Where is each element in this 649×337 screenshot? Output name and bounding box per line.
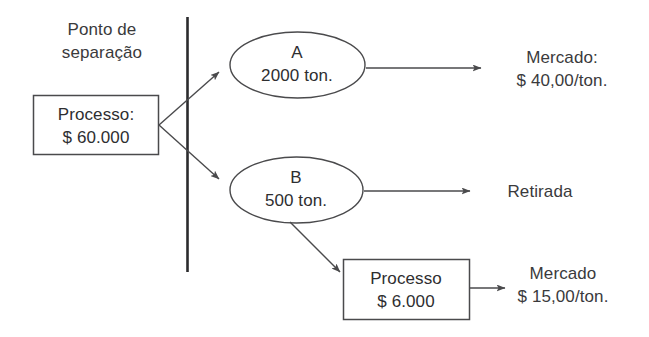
- ellipse-b-label: B 500 ton.: [265, 166, 327, 212]
- market-b-label: Mercado $ 15,00/ton.: [518, 262, 609, 308]
- arrow-b-to-process2: [290, 222, 340, 272]
- separation-point-label: Ponto de separação: [62, 18, 142, 64]
- withdrawal-label: Retirada: [507, 180, 572, 203]
- process-box-label: Processo: $ 60.000: [58, 103, 135, 149]
- arrow-process-to-b: [159, 125, 219, 179]
- process2-box-label: Processo $ 6.000: [370, 267, 442, 313]
- arrow-process-to-a: [159, 72, 219, 125]
- diagram-canvas: Ponto de separação Processo: $ 60.000 A …: [0, 0, 649, 337]
- market-a-label: Mercado: $ 40,00/ton.: [517, 46, 608, 92]
- ellipse-a-label: A 2000 ton.: [261, 41, 333, 87]
